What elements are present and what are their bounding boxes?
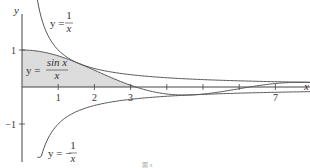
svg-text:y =: y = (26, 64, 40, 76)
x-tick-label: 3 (128, 92, 133, 103)
svg-text:x: x (54, 69, 60, 81)
x-tick-label: 1 (56, 92, 61, 103)
x-tick-label: 2 (92, 92, 97, 103)
svg-text:1: 1 (70, 139, 76, 151)
figure-caption: 圖 x (142, 162, 153, 168)
x-tick-label: 7 (273, 92, 278, 103)
y-axis-label: y (13, 4, 19, 16)
svg-text:y =: y = (50, 17, 64, 29)
y-tick-label: −1 (5, 119, 16, 130)
svg-text:1: 1 (66, 9, 72, 21)
svg-text:y = −: y = − (48, 147, 71, 159)
x-axis-label: x (303, 80, 309, 92)
svg-text:sin x: sin x (47, 56, 68, 68)
y-tick-label: 1 (11, 45, 16, 56)
annotation-neg-one-over-x: y = − 1 x (48, 139, 77, 164)
curve-neg-one-over-x (37, 92, 310, 158)
svg-text:x: x (66, 22, 72, 34)
annotation-one-over-x: y = 1 x (50, 9, 73, 34)
chart: 12371−1 y x y = 1 x y = sin x x y = − 1 … (0, 0, 310, 168)
svg-text:x: x (70, 152, 76, 164)
